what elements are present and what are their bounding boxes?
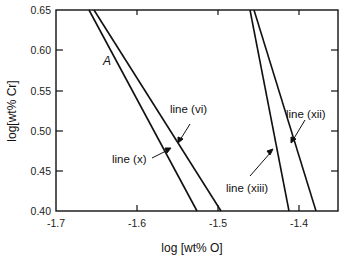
x-tick-label: -1.7 [47,217,65,229]
point-a-label: A [102,54,111,68]
line-x-label: line (x) [112,153,147,165]
annotation-arrows [152,120,305,176]
x-tick-label: -1.5 [209,217,227,229]
y-tick-label: 0.50 [31,125,52,137]
line-xii-label: line (xii) [286,108,326,120]
x-ticks [137,10,299,211]
x-axis-title: log [wt% O] [161,241,222,255]
x-tick-label: -1.4 [290,217,308,229]
chart: 0.65 0.60 0.55 0.50 0.45 0.40 -1.7 -1.6 … [0,0,345,261]
line-xiii-label: line (xiii) [226,182,268,194]
y-tick-label: 0.45 [31,165,52,177]
y-tick-labels: 0.65 0.60 0.55 0.50 0.45 0.40 [31,4,52,217]
y-tick-label: 0.65 [31,4,52,16]
y-tick-label: 0.40 [31,205,52,217]
y-tick-label: 0.60 [31,44,52,56]
y-axis-title: log[wt% Cr] [5,80,19,141]
x-tick-labels: -1.7 -1.6 -1.5 -1.4 [47,217,308,229]
y-tick-label: 0.55 [31,85,52,97]
line-xiii [250,10,289,211]
x-tick-label: -1.6 [128,217,146,229]
line-vi-label: line (vi) [170,103,207,115]
